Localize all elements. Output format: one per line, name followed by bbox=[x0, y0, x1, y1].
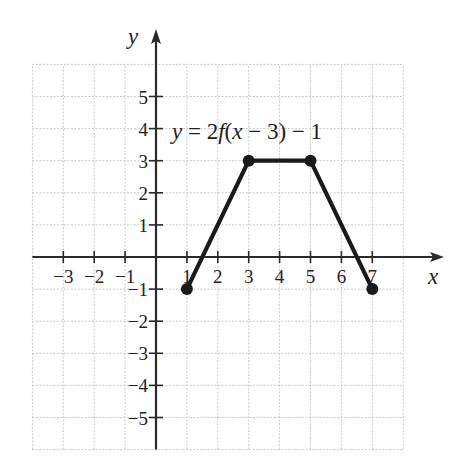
y-tick-label: 2 bbox=[139, 183, 149, 204]
function-label-part: y bbox=[170, 119, 183, 144]
x-tick-label: 5 bbox=[306, 266, 316, 287]
y-tick-label: −2 bbox=[128, 311, 148, 332]
data-point-marker bbox=[243, 155, 255, 167]
y-axis-label: y bbox=[126, 24, 139, 49]
y-tick-label: 4 bbox=[139, 119, 149, 140]
function-label: y = 2f(x − 3) − 1 bbox=[170, 119, 322, 144]
y-tick-label: 5 bbox=[139, 87, 149, 108]
y-tick-label: 3 bbox=[139, 151, 149, 172]
axis-labels: −3−2−11234567−5−4−3−2−112345xy bbox=[53, 24, 439, 429]
x-tick-label: 1 bbox=[182, 266, 192, 287]
y-tick-label: 1 bbox=[139, 215, 149, 236]
x-tick-label: −3 bbox=[53, 266, 73, 287]
function-label-part: ( bbox=[225, 119, 233, 144]
x-tick-label: 4 bbox=[275, 266, 285, 287]
graph: −3−2−11234567−5−4−3−2−112345xy y = 2f(x … bbox=[0, 0, 464, 474]
function-label-part: − 3) − 1 bbox=[242, 119, 322, 144]
x-tick-label: 7 bbox=[368, 266, 378, 287]
x-tick-label: 2 bbox=[213, 266, 223, 287]
x-tick-label: 6 bbox=[337, 266, 347, 287]
data-point-marker bbox=[305, 155, 317, 167]
x-tick-label: −2 bbox=[84, 266, 104, 287]
y-tick-label: −3 bbox=[128, 343, 148, 364]
function-label-part: x bbox=[231, 119, 243, 144]
function-label-part: = 2 bbox=[182, 119, 218, 144]
y-tick-label: −4 bbox=[128, 375, 149, 396]
x-axis-label: x bbox=[427, 264, 439, 289]
y-tick-label: −5 bbox=[128, 408, 148, 429]
y-tick-label: −1 bbox=[128, 279, 148, 300]
x-tick-label: 3 bbox=[244, 266, 254, 287]
